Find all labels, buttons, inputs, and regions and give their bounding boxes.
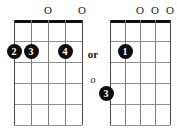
connector-or-label: or [82, 48, 104, 60]
left-open-marker-string-5: O [77, 4, 87, 17]
right-string-line-5 [170, 20, 171, 125]
left-finger-dot-3: 3 [24, 44, 39, 59]
left-string-line-3 [48, 20, 49, 125]
chord-diagram-sheet: OO 234 or o OOO 13 [0, 0, 177, 140]
right-fret-line-5 [110, 125, 170, 126]
left-finger-dot-2: 2 [7, 44, 22, 59]
right-finger-dot-3: 3 [99, 86, 114, 101]
left-string-line-4 [65, 20, 66, 125]
left-string-line-2 [31, 20, 32, 125]
right-open-string-markers: OOO [110, 4, 170, 20]
right-open-marker-string-5: O [165, 4, 175, 17]
right-open-marker-string-4: O [150, 4, 160, 17]
left-string-line-1 [14, 20, 15, 125]
right-fretboard-grid: 13 [110, 20, 170, 125]
connector-alt-label: o [82, 74, 104, 85]
left-open-marker-string-3: O [43, 4, 53, 17]
right-open-marker-string-3: O [135, 4, 145, 17]
left-finger-dot-4: 4 [58, 44, 73, 59]
left-fretboard-grid: 234 [14, 20, 82, 125]
right-string-line-3 [140, 20, 141, 125]
left-fret-line-5 [14, 125, 82, 126]
left-string-line-5 [82, 20, 83, 125]
right-string-line-1 [110, 20, 111, 125]
left-open-string-markers: OO [14, 4, 82, 20]
right-finger-dot-1: 1 [118, 44, 133, 59]
right-string-line-4 [155, 20, 156, 125]
right-string-line-2 [125, 20, 126, 125]
